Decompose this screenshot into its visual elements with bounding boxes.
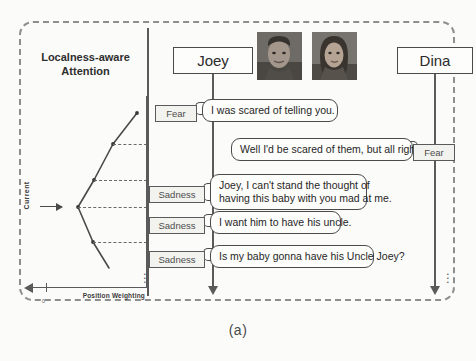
plot-horizontal-axis: [30, 287, 147, 289]
message-line: having this baby with you mad at me.: [219, 192, 358, 205]
message-bubble: Is my baby gonna have his Uncle Joey?: [210, 245, 374, 268]
message-bubble: I want him to have his uncle.: [210, 211, 341, 234]
localness-weight-curve: [24, 96, 147, 296]
x-axis-label: Position Weighting: [83, 292, 145, 299]
connector-line-message-4: [78, 207, 147, 208]
speaker-box-dina: Dina: [397, 47, 473, 74]
message-line: Well I'd be scared of them, but all righ…: [240, 143, 404, 156]
x-axis-origin-tick: [46, 283, 47, 292]
dina-face-photo: [312, 32, 357, 80]
emotion-tag: Sadness: [149, 186, 205, 203]
attention-title-line1: Localness-aware: [41, 51, 130, 63]
emotion-tag: Sadness: [149, 251, 205, 268]
connector-line-message-2: [113, 144, 147, 145]
connector-line-message-5: [93, 242, 147, 243]
timeline-arrow-dina: [430, 286, 440, 295]
current-position-label: Current: [23, 181, 30, 209]
emotion-tag: Fear: [413, 144, 455, 161]
figure-caption: (a): [0, 322, 476, 338]
emotion-tag: Sadness: [149, 217, 205, 234]
timeline-arrow-joey: [208, 286, 218, 295]
x-axis-origin-label: 0: [42, 298, 45, 304]
x-axis-direction-arrow: [24, 283, 33, 293]
current-position-arrow: [40, 206, 62, 207]
position-weighting-plot: Current 0 Position Weighting: [24, 96, 147, 296]
continuation-ellipsis-right: ...: [446, 269, 450, 281]
timeline-dina: [434, 74, 436, 288]
attention-panel-title: Localness-aware Attention: [24, 50, 147, 78]
connector-line-message-3: [94, 180, 147, 181]
message-bubble: Well I'd be scared of them, but all righ…: [231, 138, 413, 161]
message-line: Is my baby gonna have his Uncle Joey?: [219, 250, 365, 263]
message-bubble: I was scared of telling you.: [202, 99, 338, 122]
attention-title-line2: Attention: [61, 65, 109, 77]
joey-face-photo: [257, 32, 302, 80]
emotion-tag: Fear: [155, 105, 197, 122]
continuation-ellipsis-left: ...: [143, 269, 147, 281]
conversation-panel: Joey Dina ...: [147, 26, 452, 298]
message-line: Joey, I can't stand the thought of: [219, 179, 358, 192]
message-line: I want him to have his uncle.: [219, 216, 332, 229]
localness-attention-panel: Localness-aware Attention Current 0 Posi…: [24, 26, 147, 296]
speaker-box-joey: Joey: [173, 47, 253, 74]
message-line: I was scared of telling you.: [211, 104, 329, 117]
message-bubble: Joey, I can't stand the thought of havin…: [210, 174, 367, 210]
